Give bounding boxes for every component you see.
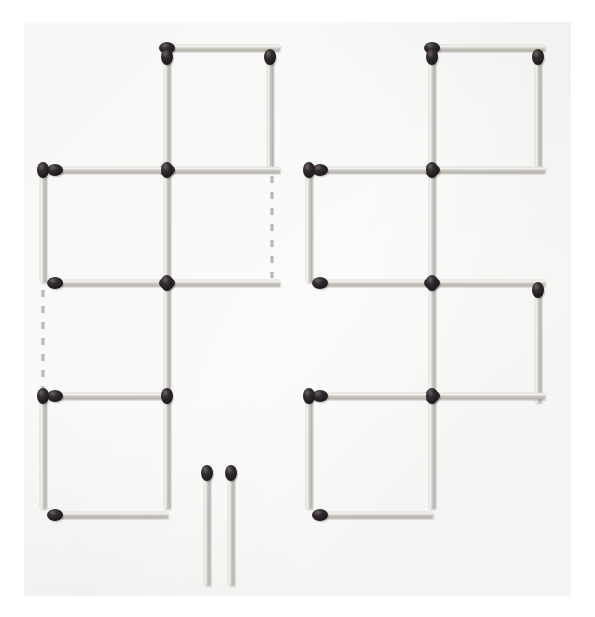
match-center-vertical-upper	[426, 162, 439, 285]
match-middle-left-square-left	[303, 162, 316, 285]
match-head	[47, 277, 63, 289]
match-bottom-square-bottom	[47, 509, 169, 523]
loose-match-left	[201, 465, 214, 588]
matchstick-svg	[0, 0, 595, 617]
match-head	[161, 388, 173, 404]
match-center-vertical-down	[161, 275, 174, 398]
match-head	[312, 509, 328, 521]
match-center-vertical-lower	[426, 275, 439, 398]
match-head	[426, 162, 438, 178]
match-middle-square-bottom	[47, 277, 169, 291]
left-group-layer	[37, 42, 281, 523]
match-bottom-square-top	[47, 390, 169, 404]
match-bottom-square-left	[37, 388, 50, 511]
match-head	[161, 162, 173, 178]
match-head	[312, 277, 328, 289]
match-head	[225, 465, 237, 481]
match-head	[532, 282, 544, 298]
match-top-square-top	[424, 42, 546, 56]
match-top-square-bottom	[159, 164, 281, 178]
match-head	[37, 388, 49, 404]
match-bottom-square-top	[312, 390, 434, 404]
loose-match-right	[225, 465, 238, 588]
match-top-square-left	[161, 49, 174, 172]
match-bottom-square-left	[303, 388, 316, 511]
match-top-square-left	[426, 49, 439, 172]
match-middle-left-square-top	[312, 164, 434, 178]
match-head	[37, 162, 49, 178]
match-top-square-bottom	[424, 164, 546, 178]
match-head	[426, 388, 438, 404]
match-head	[532, 49, 544, 65]
match-middle-row-right-extend	[159, 277, 281, 291]
match-top-square-top	[159, 42, 281, 56]
right-group-layer	[303, 42, 546, 523]
match-middle-square-right	[161, 162, 174, 285]
match-bottom-square-right	[161, 388, 174, 511]
match-middle-left-square-bottom	[312, 277, 434, 291]
match-head	[426, 49, 438, 65]
match-middle-right-square-right	[532, 282, 545, 405]
match-head	[47, 509, 63, 521]
match-bottom-square-right	[426, 388, 439, 511]
matchstick-scene	[0, 0, 595, 617]
figure-canvas	[0, 0, 595, 617]
match-head	[161, 275, 173, 291]
match-middle-square-left	[37, 162, 50, 285]
match-middle-square-top	[47, 164, 169, 178]
match-head	[303, 388, 315, 404]
match-bottom-square-bottom	[312, 509, 434, 523]
match-head	[264, 49, 276, 65]
match-middle-right-square-bottom	[424, 390, 546, 404]
match-middle-right-square-top	[424, 277, 546, 291]
match-top-square-right	[532, 49, 545, 172]
match-head	[201, 465, 213, 481]
loose-matches-layer	[201, 465, 238, 588]
match-head	[303, 162, 315, 178]
match-top-square-right	[264, 49, 277, 172]
match-head	[161, 49, 173, 65]
match-head	[426, 275, 438, 291]
